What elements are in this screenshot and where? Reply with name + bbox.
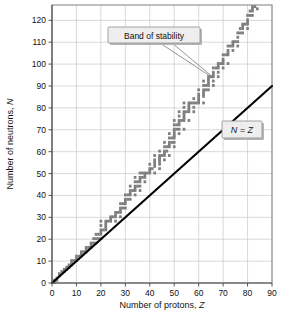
band-data-point	[212, 80, 215, 83]
band-data-point	[178, 110, 181, 113]
band-data-point	[163, 150, 166, 153]
band-data-point	[251, 14, 254, 17]
band-data-point	[217, 71, 220, 74]
band-data-point	[232, 49, 235, 52]
band-data-point	[170, 141, 173, 144]
band-data-point	[227, 45, 230, 48]
y-tick-label: 30	[37, 212, 47, 222]
band-data-point	[173, 141, 176, 144]
band-data-point	[161, 154, 164, 157]
band-data-point	[183, 110, 186, 113]
chart-figure: 0102030405060708090010203040506070809010…	[0, 0, 285, 324]
band-data-point	[136, 185, 139, 188]
band-data-point	[163, 158, 166, 161]
band-data-point	[107, 220, 110, 223]
band-data-point	[144, 172, 147, 175]
band-data-point	[232, 40, 235, 43]
band-data-point	[119, 215, 122, 218]
band-data-point	[246, 27, 249, 30]
band-data-point	[173, 128, 176, 131]
band-data-point	[195, 102, 198, 105]
band-data-point	[178, 128, 181, 131]
y-tick-label: 20	[37, 234, 47, 244]
band-data-point	[85, 246, 88, 249]
band-data-point	[183, 128, 186, 131]
band-data-point	[246, 18, 249, 21]
band-data-point	[173, 119, 176, 122]
n-equals-z-label: N = Z	[222, 121, 264, 140]
band-data-point	[183, 106, 186, 109]
chart-background	[0, 0, 285, 324]
band-data-point	[227, 49, 230, 52]
band-of-stability-chart: 0102030405060708090010203040506070809010…	[0, 0, 285, 324]
band-data-point	[219, 62, 222, 65]
band-data-point	[205, 88, 208, 91]
band-data-point	[158, 167, 161, 170]
band-data-point	[212, 71, 215, 74]
band-data-point	[114, 211, 117, 214]
band-data-point	[124, 207, 127, 210]
band-data-point	[241, 31, 244, 34]
band-data-point	[122, 202, 125, 205]
band-data-point	[100, 228, 103, 231]
band-data-point	[229, 45, 232, 48]
band-data-point	[214, 67, 217, 70]
band-data-point	[168, 132, 171, 135]
band-data-point	[148, 167, 151, 170]
x-tick-label: 80	[243, 288, 253, 298]
band-data-point	[146, 172, 149, 175]
band-data-point	[134, 185, 137, 188]
band-data-point	[202, 88, 205, 91]
band-data-point	[129, 189, 132, 192]
band-data-point	[222, 53, 225, 56]
band-data-point	[114, 220, 117, 223]
nz-label-text: N = Z	[231, 125, 254, 135]
band-data-point	[236, 31, 239, 34]
band-data-point	[136, 180, 139, 183]
band-data-point	[158, 154, 161, 157]
band-data-point	[122, 207, 125, 210]
band-data-point	[173, 123, 176, 126]
band-data-point	[151, 167, 154, 170]
band-data-point	[92, 237, 95, 240]
band-data-point	[202, 84, 205, 87]
y-tick-label: 90	[37, 81, 47, 91]
band-data-point	[119, 207, 122, 210]
band-data-point	[244, 23, 247, 26]
x-tick-label: 20	[96, 288, 106, 298]
band-data-point	[239, 31, 242, 34]
band-data-point	[95, 233, 98, 236]
band-data-point	[163, 145, 166, 148]
band-data-point	[104, 220, 107, 223]
band-data-point	[249, 14, 252, 17]
band-data-point	[205, 84, 208, 87]
x-tick-label: 30	[121, 288, 131, 298]
x-tick-label: 0	[50, 288, 55, 298]
band-data-point	[148, 163, 151, 166]
band-data-point	[139, 172, 142, 175]
band-data-point	[217, 62, 220, 65]
y-tick-label: 10	[37, 256, 47, 266]
band-data-point	[75, 255, 78, 258]
x-tick-label: 60	[194, 288, 204, 298]
band-data-point	[129, 198, 132, 201]
band-data-point	[141, 176, 144, 179]
x-tick-label: 10	[72, 288, 82, 298]
band-data-point	[256, 7, 259, 10]
band-data-point	[175, 128, 178, 131]
band-data-point	[153, 172, 156, 175]
band-data-point	[139, 176, 142, 179]
band-data-point	[254, 5, 257, 8]
band-data-point	[144, 180, 147, 183]
band-data-point	[80, 250, 83, 253]
band-data-point	[192, 110, 195, 113]
band-data-point	[249, 10, 252, 13]
band-data-point	[239, 27, 242, 30]
band-data-point	[192, 97, 195, 100]
band-data-point	[168, 141, 171, 144]
band-data-point	[175, 123, 178, 126]
band-data-point	[95, 237, 98, 240]
band-data-point	[170, 137, 173, 140]
band-data-point	[192, 106, 195, 109]
band-data-point	[180, 119, 183, 122]
